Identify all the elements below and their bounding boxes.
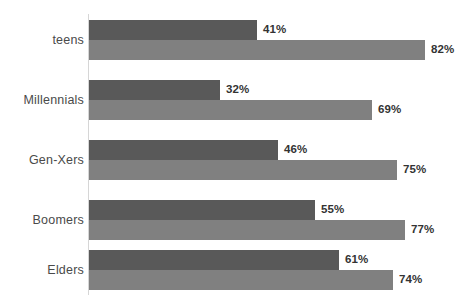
bar-primary-teens[interactable] xyxy=(89,20,257,40)
bar-group-boomers: Boomers 55% 77% xyxy=(0,200,465,240)
bar-value-secondary-millennials: 69% xyxy=(378,103,401,115)
bar-group-teens: teens 41% 82% xyxy=(0,20,465,60)
bar-group-millennials: Millennials 32% 69% xyxy=(0,80,465,120)
category-label-millennials: Millennials xyxy=(0,91,84,109)
bar-primary-gen-xers[interactable] xyxy=(89,140,278,160)
bar-primary-millennials[interactable] xyxy=(89,80,220,100)
bar-value-secondary-boomers: 77% xyxy=(411,223,434,235)
plot-area: teens 41% 82% Millennials 32% 69% Gen-Xe… xyxy=(0,0,465,302)
bar-secondary-gen-xers[interactable] xyxy=(89,160,397,180)
bar-chart: teens 41% 82% Millennials 32% 69% Gen-Xe… xyxy=(0,0,465,302)
bar-secondary-elders[interactable] xyxy=(89,270,393,290)
bar-value-primary-gen-xers: 46% xyxy=(284,143,307,155)
bar-secondary-teens[interactable] xyxy=(89,40,425,60)
bar-value-secondary-teens: 82% xyxy=(431,43,454,55)
bar-primary-boomers[interactable] xyxy=(89,200,315,220)
bar-secondary-millennials[interactable] xyxy=(89,100,372,120)
bar-value-primary-millennials: 32% xyxy=(226,83,249,95)
category-label-gen-xers: Gen-Xers xyxy=(0,151,84,169)
category-label-elders: Elders xyxy=(0,261,84,279)
bar-value-primary-teens: 41% xyxy=(263,23,286,35)
bar-secondary-boomers[interactable] xyxy=(89,220,405,240)
bar-value-secondary-gen-xers: 75% xyxy=(403,163,426,175)
bar-value-primary-boomers: 55% xyxy=(321,203,344,215)
bar-group-gen-xers: Gen-Xers 46% 75% xyxy=(0,140,465,180)
bar-group-elders: Elders 61% 74% xyxy=(0,250,465,290)
category-label-teens: teens xyxy=(0,31,84,49)
bar-value-secondary-elders: 74% xyxy=(399,273,422,285)
category-label-boomers: Boomers xyxy=(0,211,84,229)
bar-primary-elders[interactable] xyxy=(89,250,339,270)
bar-value-primary-elders: 61% xyxy=(345,253,368,265)
